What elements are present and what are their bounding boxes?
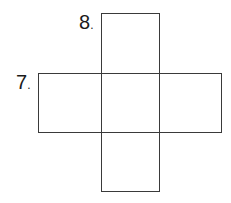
clue-7-dot: . [27,78,30,92]
cell-8-down-3[interactable] [101,132,160,192]
cell-7-across-3[interactable] [159,73,222,133]
clue-8-dot: . [90,18,93,32]
clue-number-8: 8. [79,12,93,35]
clue-8-number: 8 [79,11,90,33]
clue-number-7: 7. [16,72,30,95]
cell-8-down-1[interactable] [101,13,160,74]
cell-shared-center[interactable] [101,73,160,133]
cell-7-across-1[interactable] [38,73,102,133]
clue-7-number: 7 [16,71,27,93]
